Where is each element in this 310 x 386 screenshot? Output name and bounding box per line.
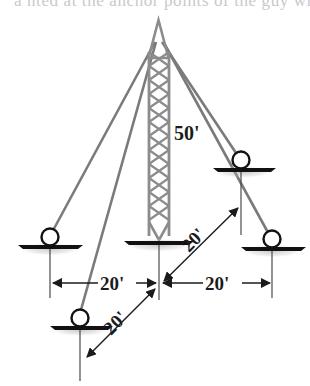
tower-diagram: 20' 20' 20' 20' 50'	[0, 0, 310, 386]
anchor-lower-left-ring	[72, 310, 89, 327]
anchor-upper-right-ring	[233, 152, 250, 169]
tower-height-label: 50'	[174, 122, 200, 144]
figure-root: a nted at the anchor points of the guy w…	[0, 0, 310, 386]
dimension-right: 20'	[163, 273, 270, 294]
dimension-lower-left: 20'	[87, 289, 155, 357]
anchor-right-ring	[264, 231, 281, 248]
guy-wire-to-left-anchor	[50, 42, 155, 236]
anchor-left-ring	[42, 229, 59, 246]
guy-wires-group	[50, 42, 271, 317]
lattice-tower	[149, 20, 170, 240]
dimension-left: 20'	[53, 273, 156, 294]
dim-right-label: 20'	[205, 273, 229, 294]
anchor-upper-right[interactable]	[212, 152, 276, 179]
tower-foot	[149, 222, 169, 240]
dim-upper-right-label: 20'	[177, 224, 209, 256]
dim-left-label: 20'	[100, 273, 124, 294]
extension-lines-group	[50, 172, 272, 381]
anchor-right[interactable]	[240, 231, 306, 259]
tower-bracing	[149, 52, 169, 220]
tower-apex	[149, 20, 169, 58]
